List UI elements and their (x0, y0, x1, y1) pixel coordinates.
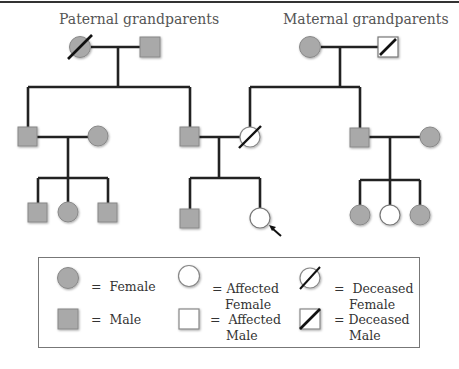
maternal-uncle-spouse-female-symbol (420, 127, 440, 147)
paternal-uncle-male-symbol (18, 127, 37, 146)
legend-deceased-female-label: = DeceasedFemale (334, 281, 414, 313)
paternal-grandfather-male-symbol (140, 37, 160, 57)
maternal-grandmother-female-symbol (300, 37, 321, 58)
cousin-female-symbol (350, 205, 370, 225)
maternal-uncle-male-symbol (350, 128, 369, 147)
father-male-symbol (180, 127, 199, 146)
brother-male-symbol (180, 209, 199, 228)
cousin-affected-female-symbol (380, 205, 400, 225)
mother-deceased-female-symbol (239, 126, 261, 148)
legend-male-label: = Male (91, 312, 141, 328)
paternal-uncle-spouse-female-symbol (88, 126, 108, 146)
maternal-grandfather-deceased-male-symbol (378, 37, 398, 57)
legend-affected-male-label: = AffectedMale (210, 312, 281, 344)
cousin-male-symbol (98, 203, 117, 222)
proband-arrow-icon (269, 225, 281, 236)
paternal-grandmother-deceased-female-symbol (68, 35, 92, 59)
legend-affected-female-label: = AffectedFemale (212, 281, 279, 313)
cousin-male-symbol (28, 203, 47, 222)
legend-female-label: = Female (91, 279, 156, 295)
cousin-female-symbol (410, 205, 430, 225)
proband-affected-female-symbol (250, 208, 270, 228)
legend-deceased-male-label: = DeceasedMale (334, 312, 410, 344)
cousin-female-symbol (58, 202, 78, 222)
